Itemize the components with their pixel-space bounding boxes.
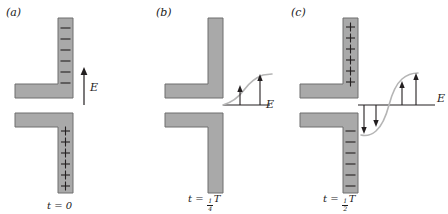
upper-antenna-rod: [165, 18, 223, 98]
panel-a-graphic: [0, 0, 150, 214]
panel-b-time-fraction: 14: [207, 198, 213, 212]
panel-a-time-prefix: t =: [47, 200, 66, 211]
panel-b-time-denominator: 4: [207, 206, 213, 212]
field-arrow-up: [81, 67, 88, 105]
panel-c-time-label: t = 12T: [323, 193, 355, 212]
panel-b-time-prefix: t =: [188, 193, 207, 204]
panel-c-field-label: E: [437, 93, 445, 105]
figure-antenna-radiation: (a): [0, 0, 448, 214]
upper-antenna-rod: [300, 18, 358, 98]
panel-b: (b) E t = 14T: [150, 0, 300, 214]
panel-b-field-label: E: [266, 99, 274, 111]
field-arrow-up-small: [237, 85, 242, 105]
panel-b-graphic: [150, 0, 300, 214]
panel-c-time-fraction: 12: [342, 198, 348, 212]
wave-curve: [223, 74, 272, 105]
field-arrow-up-large: [257, 74, 262, 105]
panel-c-time-prefix: t =: [323, 193, 342, 204]
field-arrow-down-large: [361, 105, 366, 134]
wave-curve: [361, 73, 418, 136]
panel-c: (c): [285, 0, 448, 214]
field-arrow-down-small: [373, 105, 378, 127]
panel-c-graphic: [285, 0, 448, 214]
lower-antenna-rod: [165, 113, 223, 193]
field-arrow-up-large: [413, 73, 418, 105]
panel-b-time-label: t = 14T: [188, 193, 220, 212]
panel-c-time-suffix: T: [349, 193, 356, 204]
panel-a: (a): [0, 0, 150, 214]
panel-c-time-denominator: 2: [342, 206, 348, 212]
panel-a-field-label: E: [90, 82, 98, 94]
panel-b-time-suffix: T: [214, 193, 221, 204]
panel-a-time-value: 0: [66, 200, 72, 211]
field-arrow-up-small: [399, 81, 404, 105]
panel-a-time-label: t = 0: [47, 200, 72, 212]
upper-antenna-rod: [15, 18, 73, 98]
